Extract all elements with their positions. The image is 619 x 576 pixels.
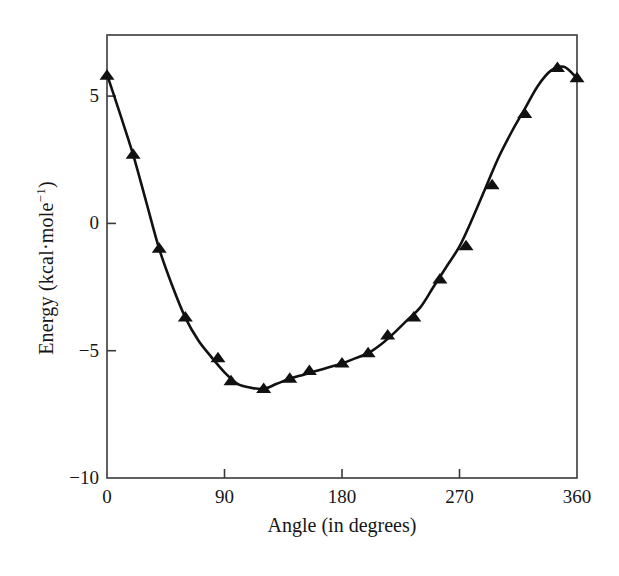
energy-angle-chart: Energy (kcal·mole−1) Angle (in degrees) … xyxy=(0,0,619,576)
chart-background xyxy=(0,0,619,576)
plot-canvas xyxy=(0,0,619,576)
